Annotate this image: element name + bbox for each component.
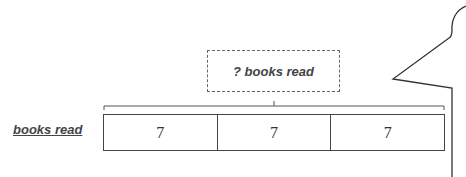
unknown-total-box: ? books read [207,50,340,92]
speech-bubble-outline [393,6,466,177]
tape-segment: 7 [218,115,332,150]
unknown-total-label: ? books read [233,64,314,79]
tape-segment: 7 [331,115,444,150]
row-label: books read [13,122,82,137]
tape-bar: 7 7 7 [103,114,445,151]
tape-segment: 7 [104,115,218,150]
total-bracket [104,106,444,110]
